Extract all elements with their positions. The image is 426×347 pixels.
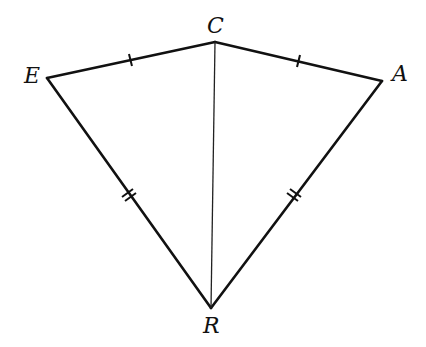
label-c: C [207, 13, 224, 38]
label-r: R [202, 313, 220, 338]
label-a: A [390, 61, 408, 86]
kite-diagram: E C A R [0, 0, 426, 347]
label-e: E [23, 63, 40, 88]
segment-cr [211, 42, 215, 308]
